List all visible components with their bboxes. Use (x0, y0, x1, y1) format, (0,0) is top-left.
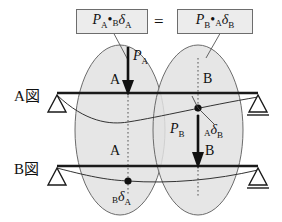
load-label-pa: PA (133, 48, 148, 66)
deflection-point-a-figure-b (124, 177, 131, 184)
figure-label-a: A図 (14, 84, 40, 105)
equation-box-right: PB•AδB (177, 9, 253, 34)
node-label-a-figure-b: A (110, 143, 120, 159)
node-label-b-figure-a: B (203, 71, 212, 87)
equation-right-text: PB•AδB (196, 13, 235, 30)
roller-support-figure-b (249, 168, 267, 185)
deflection-label-b-delta-a: BδA (112, 189, 131, 207)
pin-support-figure-b (48, 168, 66, 185)
diagram-canvas: PA•BδA = PB•AδB A図 B図 A B A B PA PB AδB … (0, 0, 282, 222)
equation-left-text: PA•BδA (93, 13, 132, 30)
equals-sign: = (154, 12, 164, 32)
deflection-label-a-delta-b: AδB (204, 122, 223, 140)
node-label-b-figure-b: B (205, 143, 214, 159)
equation-box-left: PA•BδA (76, 9, 148, 34)
node-label-a-figure-a: A (110, 72, 120, 88)
pin-support-figure-a (48, 95, 66, 112)
figure-label-b: B図 (14, 157, 39, 178)
roller-support-figure-a (249, 95, 267, 112)
load-label-pb: PB (170, 121, 185, 139)
